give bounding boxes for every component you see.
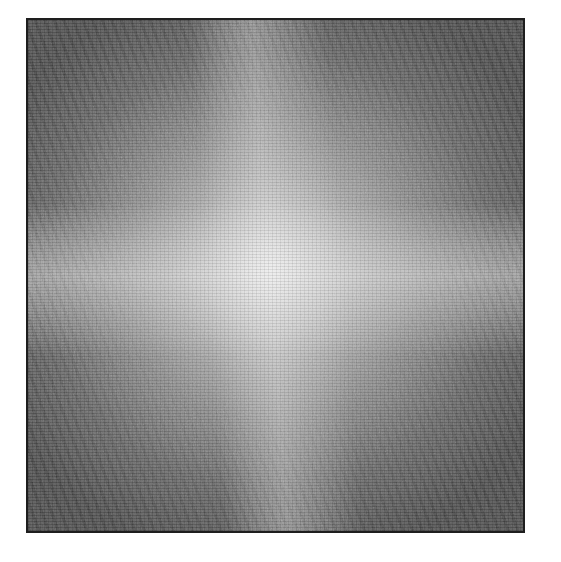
diagonal-streaks <box>28 20 523 531</box>
vertical-speckle-lines <box>28 20 523 531</box>
vertical-bright-band <box>26 18 525 533</box>
image-canvas: Grayscale 2D frequency spectrum with bri… <box>0 0 561 562</box>
horizontal-scanlines <box>28 20 523 531</box>
radial-falloff <box>28 20 523 531</box>
spectrum-image <box>26 18 525 533</box>
noise-texture <box>28 20 523 531</box>
horizontal-bright-band <box>28 20 523 531</box>
